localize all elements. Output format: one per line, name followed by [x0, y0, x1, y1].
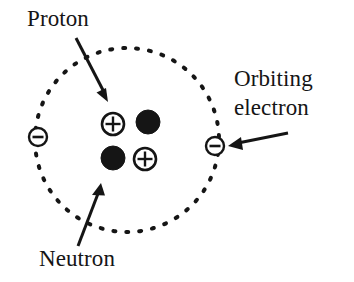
atom-diagram-figure: Proton Neutron Orbiting electron [0, 0, 354, 282]
orbiting-electron-label-line2: electron [234, 95, 313, 120]
proton-bottom-right [134, 148, 156, 170]
electron-orbit-circle [35, 48, 219, 232]
electrons [29, 128, 224, 155]
electron-right [206, 137, 224, 155]
orbiting-electron-label: Orbiting electron [234, 66, 313, 120]
neutron-label: Neutron [39, 246, 115, 271]
neutron-top-right [136, 110, 160, 134]
neutron-arrow [78, 183, 105, 246]
atom-diagram-canvas [0, 0, 354, 282]
proton-arrow [76, 38, 108, 102]
nucleus [101, 110, 160, 170]
electron-left [29, 128, 47, 146]
electron-arrow [228, 133, 288, 150]
neutron-bottom-left [101, 146, 125, 170]
proton-label: Proton [27, 6, 89, 31]
proton-top-left [102, 113, 124, 135]
orbiting-electron-label-line1: Orbiting [234, 66, 313, 91]
